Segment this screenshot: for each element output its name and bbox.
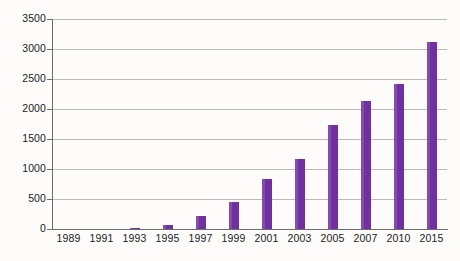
bar[interactable]: [427, 42, 437, 229]
bar-highlight: [130, 228, 133, 230]
y-axis-tick-label: 1000: [2, 162, 46, 174]
y-axis-tick: [47, 199, 52, 200]
bar[interactable]: [262, 179, 272, 229]
bar[interactable]: [196, 216, 206, 229]
y-axis-tick: [47, 109, 52, 110]
y-axis-tick: [47, 19, 52, 20]
y-axis-tick-label: 2500: [2, 72, 46, 84]
bar[interactable]: [295, 159, 305, 229]
y-axis-tick: [47, 229, 52, 230]
bar[interactable]: [361, 101, 371, 229]
y-axis-tick-label: 2000: [2, 102, 46, 114]
bar-chart-screenshot: 0500100015002000250030003500 19891991199…: [0, 0, 460, 261]
bar[interactable]: [163, 225, 173, 229]
y-axis-tick: [47, 79, 52, 80]
x-axis-labels: 1989199119931995199719992001200320052007…: [52, 232, 448, 250]
y-axis-tick-label: 3000: [2, 42, 46, 54]
x-axis-tick-label: 2015: [412, 232, 452, 244]
y-axis-tick-label: 3500: [2, 12, 46, 24]
bar-highlight: [295, 159, 298, 229]
bar-highlight: [163, 225, 166, 229]
y-axis-labels: 0500100015002000250030003500: [0, 0, 46, 261]
y-axis-tick-label: 1500: [2, 132, 46, 144]
bar-highlight: [196, 216, 199, 229]
bar-highlight: [229, 202, 232, 229]
y-axis-tick: [47, 169, 52, 170]
bar[interactable]: [229, 202, 239, 229]
y-axis-tick: [47, 139, 52, 140]
bar-highlight: [262, 179, 265, 229]
bar[interactable]: [130, 228, 140, 230]
y-axis-tick-label: 500: [2, 192, 46, 204]
bar-highlight: [328, 125, 331, 229]
bar[interactable]: [394, 84, 404, 229]
y-axis-tick-label: 0: [2, 222, 46, 234]
bar-highlight: [394, 84, 397, 229]
x-axis-line: [52, 229, 448, 230]
bar-series: [52, 19, 448, 229]
bar[interactable]: [328, 125, 338, 229]
y-axis-tick: [47, 49, 52, 50]
bar-highlight: [361, 101, 364, 229]
bar-highlight: [427, 42, 430, 229]
